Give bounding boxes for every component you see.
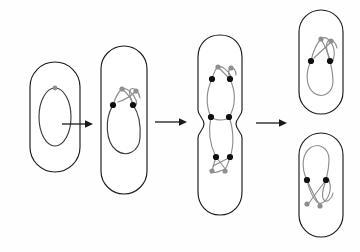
replication-fork-dot — [327, 58, 333, 64]
cell-wall-3-septum — [198, 35, 242, 215]
replication-fork-dot — [130, 102, 136, 108]
origin-dot — [228, 65, 233, 70]
origin-dot — [222, 168, 227, 173]
cell-3-dividing-cell — [198, 35, 242, 215]
origin-dot — [304, 201, 309, 206]
replication-fork-dot — [213, 154, 219, 160]
origin-dot — [318, 36, 323, 41]
origin-dot — [317, 203, 322, 208]
origin-dot — [119, 86, 124, 91]
replication-fork-dot — [110, 102, 116, 108]
cell-1-parent-cell — [30, 62, 80, 172]
cell-wall-1 — [30, 62, 80, 172]
origin-dot — [328, 38, 333, 43]
cell-5-daughter-cell-bottom — [299, 133, 343, 237]
replication-fork-dot — [227, 154, 233, 160]
origin-dot — [209, 168, 214, 173]
replication-fork-dot — [308, 58, 314, 64]
replication-fork-dot — [227, 76, 233, 82]
replication-fork-dot — [226, 114, 232, 120]
cell-4-daughter-cell-top — [299, 10, 343, 114]
bacterial-division-diagram: Bacterial chromosome replication and bin… — [0, 0, 360, 252]
origin-dot — [53, 86, 58, 91]
origin-dot — [133, 88, 138, 93]
replication-fork-dot — [209, 76, 215, 82]
cell-wall-5 — [299, 133, 343, 237]
replication-fork-dot — [323, 177, 329, 183]
replication-fork-dot — [304, 177, 310, 183]
replication-fork-dot — [208, 114, 214, 120]
cell-wall-4 — [299, 10, 343, 114]
origin-dot — [215, 64, 220, 69]
cell-2-replicating-cell — [101, 46, 147, 194]
figure-container: Bacterial chromosome replication and bin… — [0, 0, 360, 252]
